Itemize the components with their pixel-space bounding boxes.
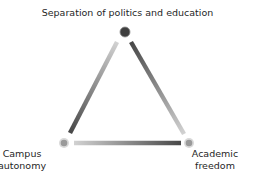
label-line: Academic	[185, 148, 245, 160]
node-left	[59, 138, 69, 148]
label-line: autonomy	[0, 160, 52, 172]
node-right	[184, 138, 194, 148]
label-line: freedom	[185, 160, 245, 172]
label-academic-freedom: Academic freedom	[185, 148, 245, 172]
edge-top-right	[131, 42, 184, 134]
label-line: Campus	[0, 148, 52, 160]
node-top	[120, 27, 130, 37]
label-campus-autonomy: Campus autonomy	[0, 148, 52, 172]
edge-top-left	[70, 42, 117, 133]
label-separation-of-politics-and-education: Separation of politics and education	[0, 7, 255, 19]
